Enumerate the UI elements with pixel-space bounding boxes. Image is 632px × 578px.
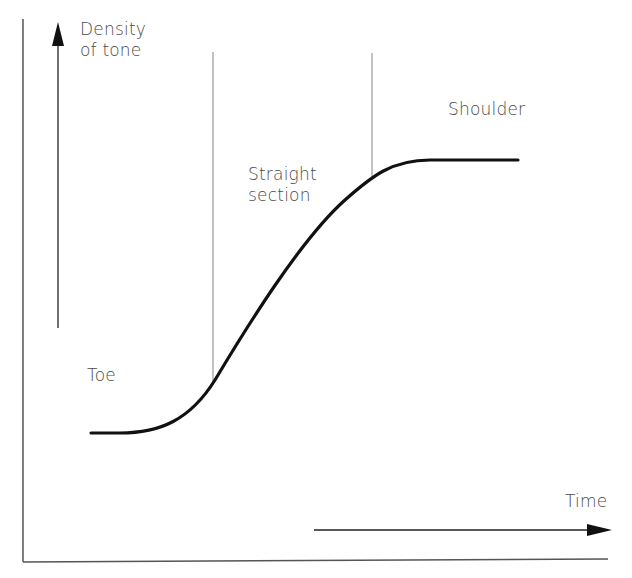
region-label-toe: Toe (87, 365, 116, 386)
diagram-canvas (0, 0, 632, 578)
y-axis-label-line-1: Density (80, 19, 146, 40)
x-axis-label: Time (565, 491, 607, 512)
region-label-straight-section: Straight section (248, 164, 317, 206)
y-axis-arrowhead-icon (52, 22, 64, 46)
x-axis-arrowhead-icon (587, 524, 612, 536)
y-axis-label-line-2: of tone (80, 40, 146, 61)
frame-bottom-border (23, 559, 608, 562)
straight-label-line-2: section (248, 185, 317, 206)
straight-label-line-1: Straight (248, 164, 317, 185)
region-label-shoulder: Shoulder (448, 99, 525, 120)
y-axis-label: Density of tone (80, 19, 146, 61)
